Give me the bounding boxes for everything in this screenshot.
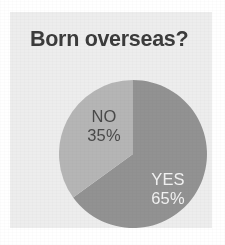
pie-label-yes-percent: 65% [136,189,200,208]
pie-label-no-name: NO [72,107,136,126]
pie-label-no-percent: 35% [72,126,136,145]
chart-panel: Born overseas? NO 35% YES 65% [10,12,212,228]
pie-label-no: NO 35% [72,107,136,145]
chart-figure: Born overseas? NO 35% YES 65% [0,0,225,245]
pie-label-yes-name: YES [136,170,200,189]
pie-label-yes: YES 65% [136,170,200,208]
chart-title: Born overseas? [30,27,220,51]
